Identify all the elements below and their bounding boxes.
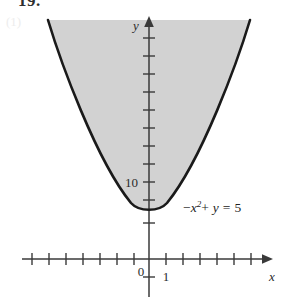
equation-var-y: y: [211, 200, 219, 215]
y-tick-label-10: 10: [125, 175, 138, 190]
x-tick-label-1: 1: [163, 269, 170, 284]
equation-plus: +: [201, 200, 209, 215]
svg-text:−x2+y=5: −x2+y=5: [183, 199, 241, 215]
coordinate-plane: x y 0 1 10 −x2+y=5: [0, 0, 290, 307]
x-axis-label: x: [268, 269, 275, 284]
graph-figure: (1) 19.: [0, 0, 290, 307]
equation-equals: =: [223, 200, 231, 215]
problem-number-label: 19.: [18, 0, 41, 11]
equation-minus: −: [183, 200, 191, 215]
y-axis-label: y: [131, 18, 139, 33]
x-axis-arrow: [262, 254, 273, 264]
origin-label: 0: [138, 264, 145, 279]
equation-var-x: x: [190, 200, 197, 215]
ghost-margin-mark: (1): [6, 14, 21, 30]
equation-label: −x2+y=5: [183, 199, 241, 215]
equation-constant: 5: [234, 200, 241, 215]
